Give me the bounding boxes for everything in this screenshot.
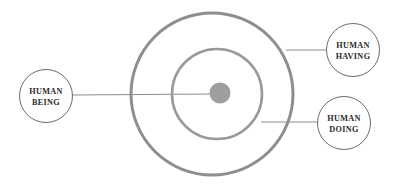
connector-being-to-center (73, 94, 213, 95)
node-human-doing-outline (318, 97, 371, 150)
node-human-having[interactable]: HUMAN HAVING (327, 24, 380, 77)
node-human-having-outline (327, 24, 380, 77)
node-human-being[interactable]: HUMAN BEING (20, 70, 73, 123)
node-human-doing-label-line2: DOING (329, 125, 359, 134)
node-human-having-label-line1: HUMAN (336, 41, 370, 50)
diagram-canvas: HUMAN BEING HUMAN HAVING HUMAN DOING (0, 0, 407, 192)
node-human-having-label-line2: HAVING (336, 52, 371, 61)
node-human-being-label-line2: BEING (32, 98, 60, 107)
node-human-being-outline (20, 70, 73, 123)
node-human-doing-label-line1: HUMAN (327, 114, 361, 123)
node-human-being-label-line1: HUMAN (29, 87, 63, 96)
concentric-circles-diagram: HUMAN BEING HUMAN HAVING HUMAN DOING (0, 0, 407, 192)
center-dot (210, 83, 231, 104)
node-human-doing[interactable]: HUMAN DOING (318, 97, 371, 150)
